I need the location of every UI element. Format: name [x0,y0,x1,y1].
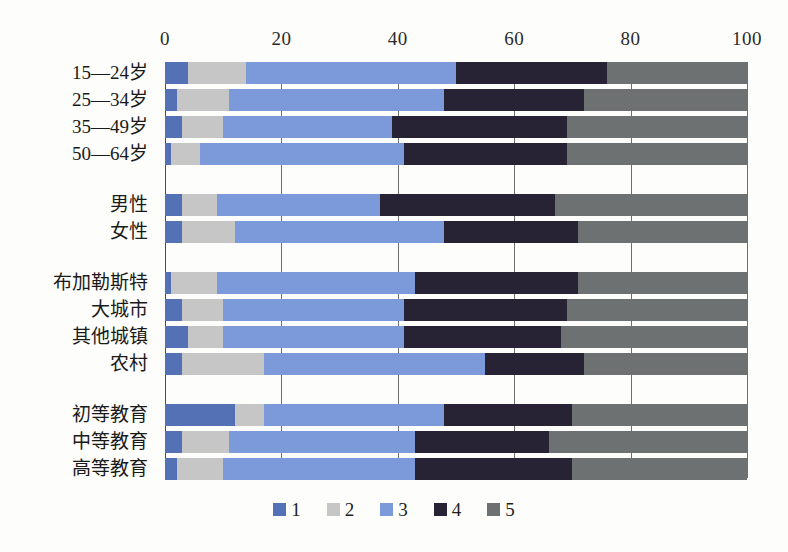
bar-segment-2[interactable] [182,221,234,243]
bar-segment-2[interactable] [188,62,246,84]
bar-segment-1[interactable] [165,404,235,426]
bar-segment-5[interactable] [567,143,747,165]
bar-row[interactable] [165,194,747,216]
bar-segment-2[interactable] [171,272,218,294]
bar-row[interactable] [165,431,747,453]
bar-segment-3[interactable] [217,194,380,216]
bar-segment-5[interactable] [549,431,747,453]
bar-segment-5[interactable] [578,272,747,294]
bar-segment-1[interactable] [165,431,182,453]
category-label: 布加勒斯特 [53,272,148,294]
bar-segment-1[interactable] [165,116,182,138]
bar-segment-3[interactable] [223,458,415,480]
legend-swatch-icon [327,503,340,516]
legend-swatch-icon [273,503,286,516]
bar-segment-3[interactable] [200,143,404,165]
bar-segment-5[interactable] [584,89,747,111]
bar-segment-5[interactable] [567,299,747,321]
bar-segment-3[interactable] [246,62,456,84]
bar-segment-4[interactable] [404,326,561,348]
bar-segment-1[interactable] [165,89,177,111]
bar-segment-3[interactable] [217,272,415,294]
bar-segment-4[interactable] [485,353,584,375]
legend-label: 2 [345,500,355,519]
bar-row[interactable] [165,221,747,243]
category-label: 50—64岁 [72,143,148,165]
x-tick-label: 100 [732,28,762,50]
bar-segment-3[interactable] [235,221,445,243]
bar-segment-5[interactable] [584,353,747,375]
x-tick-label: 60 [504,28,524,50]
bar-segment-3[interactable] [229,431,415,453]
bar-row[interactable] [165,272,747,294]
bar-segment-2[interactable] [182,431,229,453]
bar-segment-2[interactable] [182,299,223,321]
legend-item[interactable]: 4 [434,500,462,519]
bar-segment-1[interactable] [165,221,182,243]
bar-row[interactable] [165,116,747,138]
bar-segment-4[interactable] [415,458,572,480]
category-label: 初等教育 [72,404,148,426]
bar-segment-4[interactable] [444,221,578,243]
bar-segment-4[interactable] [415,272,578,294]
category-label: 高等教育 [72,458,148,480]
bar-segment-2[interactable] [171,143,200,165]
bar-row[interactable] [165,458,747,480]
bar-segment-3[interactable] [229,89,444,111]
bar-row[interactable] [165,353,747,375]
bar-segment-4[interactable] [415,431,549,453]
bar-segment-1[interactable] [165,353,182,375]
bar-segment-5[interactable] [555,194,747,216]
bar-segment-1[interactable] [165,194,182,216]
legend-item[interactable]: 3 [380,500,408,519]
bar-segment-3[interactable] [223,116,392,138]
bar-row[interactable] [165,299,747,321]
legend-swatch-icon [434,503,447,516]
bar-segment-2[interactable] [182,116,223,138]
y-axis-category-labels: 15—24岁25—34岁35—49岁50—64岁男性女性布加勒斯特大城市其他城镇… [0,62,158,478]
bar-segment-3[interactable] [223,299,403,321]
chart-legend: 12345 [0,500,788,519]
bar-segment-3[interactable] [264,353,485,375]
bar-segment-4[interactable] [456,62,607,84]
legend-item[interactable]: 2 [327,500,355,519]
bar-row[interactable] [165,62,747,84]
category-label: 15—24岁 [72,62,148,84]
legend-label: 4 [452,500,462,519]
bar-segment-3[interactable] [223,326,403,348]
bar-segment-5[interactable] [578,221,747,243]
plot-area [165,62,747,478]
bar-segment-3[interactable] [264,404,444,426]
bar-segment-1[interactable] [165,458,177,480]
bar-segment-1[interactable] [165,326,188,348]
bar-segment-2[interactable] [188,326,223,348]
legend-item[interactable]: 1 [273,500,301,519]
bar-segment-4[interactable] [444,89,584,111]
bar-segment-4[interactable] [392,116,567,138]
bar-row[interactable] [165,89,747,111]
bar-segment-2[interactable] [235,404,264,426]
bar-segment-4[interactable] [404,143,567,165]
bar-segment-4[interactable] [380,194,555,216]
bar-segment-5[interactable] [572,458,747,480]
category-label: 大城市 [91,299,148,321]
x-tick-label: 80 [621,28,641,50]
bar-segment-1[interactable] [165,299,182,321]
bar-segment-2[interactable] [182,194,217,216]
x-axis-tick-labels: 020406080100 [165,28,747,54]
legend-item[interactable]: 5 [487,500,515,519]
bar-row[interactable] [165,143,747,165]
bar-row[interactable] [165,326,747,348]
bar-segment-5[interactable] [607,62,747,84]
bar-row[interactable] [165,404,747,426]
bar-segment-5[interactable] [561,326,747,348]
category-label: 中等教育 [72,431,148,453]
bar-segment-4[interactable] [404,299,567,321]
bar-segment-2[interactable] [182,353,263,375]
bar-segment-2[interactable] [177,89,229,111]
bar-segment-5[interactable] [572,404,747,426]
bar-segment-5[interactable] [567,116,747,138]
bar-segment-2[interactable] [177,458,224,480]
bar-segment-4[interactable] [444,404,572,426]
bar-segment-1[interactable] [165,62,188,84]
